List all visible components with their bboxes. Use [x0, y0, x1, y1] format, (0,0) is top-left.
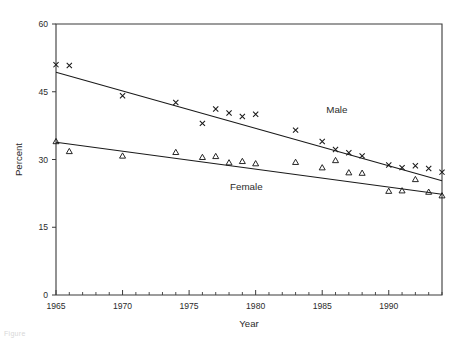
data-point-female [359, 170, 365, 175]
scatter-plot: 015304560196519701975198019851990YearPer… [0, 0, 462, 342]
data-point-female [213, 153, 219, 158]
plot-frame [56, 24, 442, 295]
x-tick-label: 1980 [246, 301, 265, 311]
data-point-male [426, 166, 431, 171]
x-tick-label: 1985 [313, 301, 332, 311]
data-point-female [319, 165, 325, 170]
figure-caption: Figure [4, 330, 26, 337]
data-point-female [226, 160, 232, 165]
data-point-female [173, 149, 179, 154]
x-tick-label: 1965 [46, 301, 65, 311]
data-point-male [200, 121, 205, 126]
series-label-female: Female [230, 181, 263, 192]
fit-line-male [56, 72, 442, 180]
data-point-female [412, 176, 418, 181]
data-point-female [199, 154, 205, 159]
data-point-male [293, 128, 298, 133]
data-point-female [293, 159, 299, 164]
data-point-male [240, 114, 245, 119]
data-point-male [413, 163, 418, 168]
y-tick-label: 45 [38, 87, 48, 97]
data-point-male [320, 139, 325, 144]
x-tick-label: 1975 [180, 301, 199, 311]
data-point-female [333, 157, 339, 162]
chart-figure: 015304560196519701975198019851990YearPer… [0, 0, 462, 342]
data-point-male [67, 63, 72, 68]
x-tick-label: 1970 [113, 301, 132, 311]
data-point-female [426, 189, 432, 194]
x-axis-title: Year [239, 318, 259, 329]
data-point-female [253, 161, 259, 166]
y-tick-label: 0 [43, 290, 48, 300]
data-point-male [253, 112, 258, 117]
data-point-male [120, 93, 125, 98]
y-tick-label: 15 [38, 222, 48, 232]
data-point-male [226, 110, 231, 115]
y-tick-label: 60 [38, 19, 48, 29]
data-point-male [360, 153, 365, 158]
data-point-male [173, 100, 178, 105]
data-point-male [333, 147, 338, 152]
x-tick-label: 1990 [379, 301, 398, 311]
data-point-female [66, 148, 72, 153]
data-point-female [346, 170, 352, 175]
y-tick-label: 30 [38, 155, 48, 165]
y-axis-title: Percent [13, 143, 24, 176]
series-label-male: Male [326, 104, 348, 115]
data-point-female [386, 188, 392, 193]
data-point-female [120, 153, 126, 158]
data-point-female [239, 158, 245, 163]
data-point-male [213, 106, 218, 111]
